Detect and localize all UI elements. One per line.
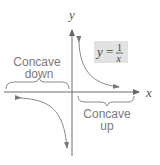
brace-concave-up	[78, 96, 134, 106]
equation-lhs: y	[95, 44, 103, 59]
concave-up-label-line2: up	[100, 119, 114, 133]
y-axis-label: y	[67, 7, 75, 22]
concave-down-label-line2: down	[25, 67, 54, 81]
equation-label: y = 1 x	[94, 41, 128, 64]
x-axis-label: x	[145, 85, 152, 100]
equation-equals: =	[106, 44, 113, 59]
equation-numerator: 1	[117, 42, 122, 53]
equation-denominator: x	[116, 53, 122, 64]
hyperbola-diagram: x y y = 1 x Concave down Concave up	[0, 0, 160, 165]
curve-third-quadrant	[21, 98, 67, 148]
